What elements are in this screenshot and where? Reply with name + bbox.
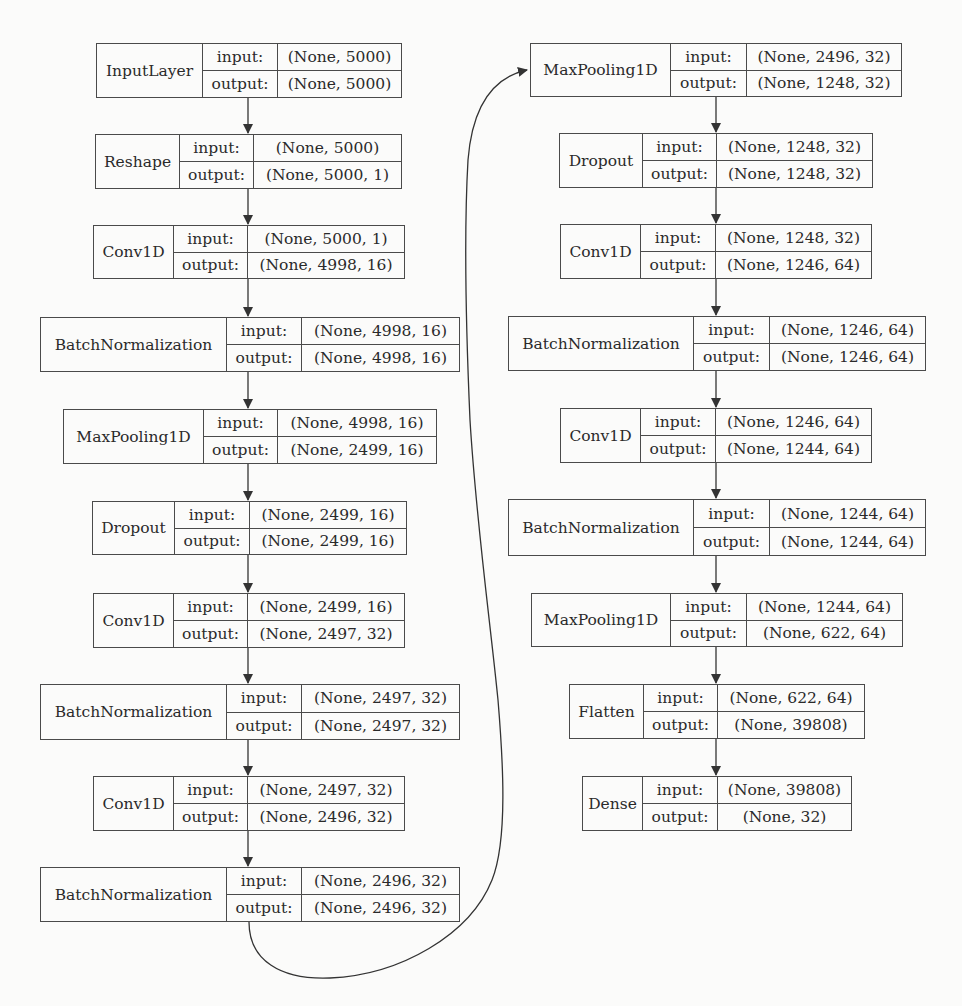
output-row: output:(None, 1248, 32) [643,160,872,187]
input-row: input:(None, 622, 64) [644,685,864,711]
output-row: output:(None, 1244, 64) [694,527,925,555]
input-shape: (None, 1246, 64) [716,409,871,435]
output-shape: (None, 39808) [718,712,864,738]
output-row: output:(None, 2496, 32) [227,894,459,921]
layer-type-label: Conv1D [94,226,174,278]
io-shapes: input:(None, 5000, 1)output:(None, 4998,… [174,226,404,278]
layer-type-label: Dropout [93,502,175,554]
output-row: output:(None, 2496, 32) [174,803,404,830]
input-shape: (None, 2499, 16) [248,594,404,620]
layer-node-batchnormalization: BatchNormalizationinput:(None, 1244, 64)… [508,499,926,556]
input-shape: (None, 4998, 16) [278,410,436,436]
input-shape: (None, 622, 64) [718,685,864,711]
output-label: output: [643,804,718,830]
layer-type-label: Conv1D [94,777,174,830]
output-label: output: [671,621,747,647]
input-shape: (None, 1248, 32) [717,134,872,160]
input-shape: (None, 2496, 32) [747,44,901,70]
output-row: output:(None, 1244, 64) [641,435,871,462]
layer-node-dropout: Dropoutinput:(None, 1248, 32)output:(Non… [559,133,873,188]
input-row: input:(None, 1246, 64) [641,409,871,435]
output-shape: (None, 1248, 32) [717,161,872,187]
input-label: input: [671,594,747,620]
input-row: input:(None, 2496, 32) [227,868,459,894]
model-architecture-diagram: InputLayerinput:(None, 5000)output:(None… [0,0,962,1006]
io-shapes: input:(None, 2499, 16)output:(None, 2497… [174,594,404,647]
layer-node-dense: Denseinput:(None, 39808)output:(None, 32… [582,776,852,831]
layer-node-conv1d: Conv1Dinput:(None, 5000, 1)output:(None,… [93,225,405,279]
output-label: output: [227,713,302,740]
output-shape: (None, 4998, 16) [302,345,459,371]
layer-type-label: MaxPooling1D [532,594,671,646]
output-label: output: [227,895,302,921]
layer-node-maxpooling1d: MaxPooling1Dinput:(None, 2496, 32)output… [530,43,902,97]
io-shapes: input:(None, 4998, 16)output:(None, 4998… [227,318,459,371]
layer-type-label: Dense [583,777,643,830]
output-label: output: [180,162,254,188]
layer-type-label: Flatten [570,685,644,738]
output-shape: (None, 2496, 32) [248,804,404,830]
layer-type-label: Conv1D [561,225,641,278]
io-shapes: input:(None, 2496, 32)output:(None, 1248… [671,44,901,96]
io-shapes: input:(None, 39808)output:(None, 32) [643,777,851,830]
io-shapes: input:(None, 2499, 16)output:(None, 2499… [175,502,406,554]
output-shape: (None, 1248, 32) [747,71,901,97]
io-shapes: input:(None, 5000)output:(None, 5000) [203,44,401,97]
layer-node-conv1d: Conv1Dinput:(None, 2499, 16)output:(None… [93,593,405,648]
output-row: output:(None, 1246, 64) [641,251,871,278]
layer-type-label: BatchNormalization [509,500,694,555]
input-label: input: [203,44,278,70]
layer-type-label: InputLayer [97,44,203,97]
input-row: input:(None, 2499, 16) [174,594,404,620]
io-shapes: input:(None, 2497, 32)output:(None, 2497… [227,685,459,739]
output-label: output: [174,804,248,830]
layer-type-label: Conv1D [561,409,641,462]
output-row: output:(None, 32) [643,803,851,830]
io-shapes: input:(None, 2496, 32)output:(None, 2496… [227,868,459,921]
input-row: input:(None, 39808) [643,777,851,803]
layer-node-conv1d: Conv1Dinput:(None, 2497, 32)output:(None… [93,776,405,831]
layer-node-maxpooling1d: MaxPooling1Dinput:(None, 4998, 16)output… [63,409,437,464]
input-row: input:(None, 5000) [203,44,401,70]
io-shapes: input:(None, 1246, 64)output:(None, 1244… [641,409,871,462]
output-label: output: [643,161,717,187]
io-shapes: input:(None, 1244, 64)output:(None, 622,… [671,594,902,646]
output-shape: (None, 1244, 64) [770,528,925,555]
output-row: output:(None, 39808) [644,711,864,738]
input-row: input:(None, 5000) [180,135,401,161]
output-shape: (None, 2496, 32) [302,895,459,921]
input-row: input:(None, 2497, 32) [227,685,459,712]
output-row: output:(None, 1248, 32) [671,70,901,97]
input-label: input: [174,777,248,803]
io-shapes: input:(None, 1246, 64)output:(None, 1246… [694,317,925,370]
output-row: output:(None, 2499, 16) [175,528,406,555]
layer-node-batchnormalization: BatchNormalizationinput:(None, 2496, 32)… [40,867,460,922]
io-shapes: input:(None, 1244, 64)output:(None, 1244… [694,500,925,555]
input-label: input: [227,685,302,712]
layer-node-maxpooling1d: MaxPooling1Dinput:(None, 1244, 64)output… [531,593,903,647]
layer-node-conv1d: Conv1Dinput:(None, 1246, 64)output:(None… [560,408,872,463]
input-row: input:(None, 1244, 64) [694,500,925,527]
input-shape: (None, 5000, 1) [248,226,404,252]
layer-node-batchnormalization: BatchNormalizationinput:(None, 1246, 64)… [508,316,926,371]
layer-node-batchnormalization: BatchNormalizationinput:(None, 2497, 32)… [40,684,460,740]
output-label: output: [174,253,248,279]
input-label: input: [174,594,248,620]
output-label: output: [644,712,718,738]
output-label: output: [641,252,716,278]
input-shape: (None, 5000) [254,135,401,161]
input-shape: (None, 2499, 16) [250,502,406,528]
input-label: input: [643,777,718,803]
output-label: output: [203,71,278,97]
input-label: input: [694,317,770,343]
layer-type-label: BatchNormalization [509,317,694,370]
io-shapes: input:(None, 5000)output:(None, 5000, 1) [180,135,401,188]
input-row: input:(None, 4998, 16) [204,410,436,436]
input-label: input: [671,44,747,70]
output-shape: (None, 1246, 64) [716,252,871,278]
layer-node-batchnormalization: BatchNormalizationinput:(None, 4998, 16)… [40,317,460,372]
output-shape: (None, 622, 64) [747,621,902,647]
output-shape: (None, 1246, 64) [770,344,925,370]
input-label: input: [694,500,770,527]
output-shape: (None, 2497, 32) [248,621,404,647]
